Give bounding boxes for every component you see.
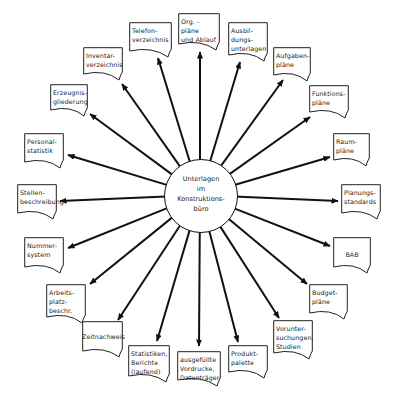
document-personal: Personal- statistik: [24, 133, 64, 167]
document-budget: Budget- pläne: [309, 284, 348, 318]
document-label: Produkt- palette: [231, 349, 266, 367]
document-label: Aufgaben- pläne: [276, 51, 309, 69]
document-funktion: Funktions- pläne: [309, 85, 349, 117]
document-label: Funktions- pläne: [312, 89, 347, 107]
document-label: Statistiken, Berichte (laufend): [131, 349, 168, 376]
document-zeit: Zeitnachweis: [82, 321, 123, 356]
document-label: Planungs- standards: [344, 188, 379, 206]
center-hub: Unterlagen im Konstruktions- büro: [164, 159, 238, 233]
document-label: Zeitnachweis: [82, 332, 123, 341]
document-label: Personal- statistik: [27, 137, 62, 155]
document-ausbildung: Ausbil- dungs- unterlagen: [228, 22, 268, 60]
arrow-vordrucke: [199, 229, 200, 346]
arrow-zeit: [118, 223, 181, 320]
document-label: Raum- pläne: [336, 137, 368, 155]
document-label: Budget- pläne: [312, 288, 346, 306]
arrow-produkt: [209, 228, 238, 342]
arrow-statistiken: [157, 228, 190, 341]
arrow-inventar: [122, 84, 180, 167]
document-stellen: Stellen- beschreibung: [17, 184, 57, 218]
document-label: Ausbil- dungs- unterlagen: [231, 26, 266, 53]
document-bab: BAB: [333, 237, 371, 272]
document-telefon: Telefon- verzeichnis: [129, 22, 172, 56]
arrow-aufgaben: [220, 80, 283, 167]
document-label: Erzeugnis- gliederung: [53, 88, 86, 106]
arrow-budget: [226, 217, 307, 284]
document-raum: Raum- pläne: [333, 133, 370, 165]
arrow-planung: [234, 196, 338, 201]
document-label: Stellen- beschreibung: [20, 188, 55, 206]
diagram-canvas: Org. - pläne und AblaufTelefon- verzeich…: [0, 0, 396, 401]
document-nummer: Nummer- system: [24, 237, 64, 272]
document-statistiken: Statistiken, Berichte (laufend): [128, 345, 170, 381]
document-label: Vorunter- suchungen, Studien: [276, 324, 311, 351]
arrow-telefon: [158, 58, 190, 162]
arrow-bab: [232, 207, 330, 246]
document-inventar: Inventar- verzeichnis: [83, 47, 123, 79]
document-label: Org. - pläne und Ablauf: [181, 17, 218, 44]
document-aufgaben: Aufgaben- pläne: [273, 47, 311, 80]
document-org: Org. - pläne und Ablauf: [178, 13, 220, 49]
document-label: Arbeits- platz- beschr.: [49, 288, 84, 315]
arrow-nummer: [68, 208, 168, 248]
document-label: Telefon- verzeichnis: [132, 26, 170, 44]
document-label: Inventar- verzeichnis: [86, 51, 121, 69]
document-erzeugnis: Erzeugnis- gliederung: [50, 84, 88, 115]
document-label: BAB: [333, 250, 371, 259]
document-planung: Planungs- standards: [341, 184, 381, 218]
document-label: Nummer- system: [27, 241, 62, 259]
center-hub-label: Unterlagen im Konstruktions- büro: [165, 174, 237, 214]
arrow-arbeitsplatz: [90, 216, 174, 284]
arrow-stellen: [60, 196, 166, 201]
document-vordrucke: ausgefüllte Vordrucke, Datenträger: [177, 351, 221, 385]
document-label: ausgefüllte Vordrucke, Datenträger: [180, 355, 219, 382]
document-produkt: Produkt- palette: [228, 345, 268, 377]
document-arbeitsplatz: Arbeits- platz- beschr.: [46, 284, 86, 322]
document-vorunter: Vorunter- suchungen, Studien: [273, 320, 313, 358]
